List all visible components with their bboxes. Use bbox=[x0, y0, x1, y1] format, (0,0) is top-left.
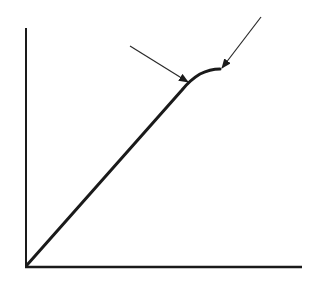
arrow-bend-end bbox=[222, 17, 261, 68]
arrow-bend-start bbox=[130, 46, 188, 82]
data-curve bbox=[27, 69, 220, 265]
chart bbox=[0, 0, 322, 286]
